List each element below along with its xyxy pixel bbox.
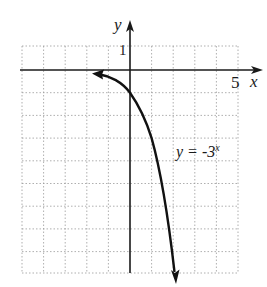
function-label-text: y = -3	[176, 143, 215, 160]
x-axis-label: x	[250, 72, 258, 92]
y-axis	[126, 20, 134, 273]
y-axis-label: y	[114, 15, 122, 35]
function-label-exponent: x	[215, 142, 219, 153]
x-axis	[20, 66, 263, 74]
y-tick-label: 1	[119, 42, 127, 59]
x-tick-label: 5	[231, 73, 240, 93]
graph	[0, 0, 267, 287]
function-label: y = -3x	[176, 142, 220, 161]
